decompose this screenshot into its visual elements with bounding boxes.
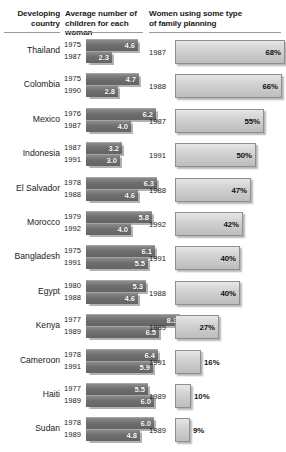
fertility-value-label: 5.8 — [138, 213, 149, 222]
table-row: El Salvador19786.319884.6198847% — [0, 174, 286, 206]
country-label: Sudan — [0, 423, 60, 433]
header-rule-children — [65, 32, 143, 33]
country-label: Haiti — [0, 389, 60, 399]
fertility-bar: 2.8 — [86, 85, 118, 97]
family-planning-bar — [175, 418, 190, 442]
planning-year-label: 1991 — [149, 254, 166, 263]
fertility-year-label: 1989 — [64, 396, 83, 405]
fertility-year-label: 1975 — [64, 246, 83, 255]
fertility-bar: 4.6 — [86, 39, 138, 51]
column-header-planning-line1: Women using some type — [149, 9, 242, 18]
fertility-year-label: 1987 — [64, 143, 83, 152]
fertility-value-label: 4.0 — [117, 225, 128, 234]
fertility-bar: 5.9 — [86, 361, 153, 373]
fertility-value-label: 2.3 — [98, 53, 109, 62]
table-row: Indonesia19873.219913.0199150% — [0, 139, 286, 171]
column-header-country: Developing country — [4, 9, 60, 28]
country-label: Cameroon — [0, 355, 60, 365]
planning-value-label: 9% — [193, 426, 204, 435]
fertility-year-label: 1980 — [64, 281, 83, 290]
planning-year-label: 1989 — [149, 323, 166, 332]
fertility-value-label: 5.5 — [134, 259, 145, 268]
table-row: Mexico19766.219874.0198755% — [0, 105, 286, 137]
planning-year-label: 1988 — [149, 82, 166, 91]
fertility-year-label: 1977 — [64, 384, 83, 393]
family-planning-bar — [175, 384, 191, 408]
fertility-bar: 3.0 — [86, 154, 120, 166]
fertility-year-label: 1978 — [64, 178, 83, 187]
table-row: Bangladesh19756.119915.5199140% — [0, 242, 286, 274]
country-label: Colombia — [0, 79, 60, 89]
planning-year-label: 1992 — [149, 220, 166, 229]
planning-year-label: 1989 — [149, 426, 166, 435]
country-label: Egypt — [0, 286, 60, 296]
planning-year-label: 1987 — [149, 48, 166, 57]
planning-year-label: 1987 — [149, 117, 166, 126]
table-row: Morocco19795.819924.0199242% — [0, 208, 286, 240]
planning-value-label: 66% — [260, 82, 278, 91]
fertility-value-label: 2.8 — [104, 87, 115, 96]
fertility-value-label: 4.7 — [125, 75, 136, 84]
country-label: Kenya — [0, 320, 60, 330]
family-planning-bar — [175, 350, 201, 374]
fertility-year-label: 1987 — [64, 121, 83, 130]
fertility-year-label: 1992 — [64, 224, 83, 233]
fertility-year-label: 1991 — [64, 258, 83, 267]
fertility-bar: 4.0 — [86, 120, 131, 132]
fertility-bar: 6.2 — [86, 108, 156, 120]
fertility-bar: 5.8 — [86, 211, 152, 223]
country-label: Bangladesh — [0, 251, 60, 261]
table-row: Kenya19778.319896.5198927% — [0, 311, 286, 343]
planning-value-label: 40% — [218, 289, 236, 298]
fertility-bar: 4.8 — [86, 429, 140, 441]
planning-year-label: 1988 — [149, 289, 166, 298]
fertility-bar: 4.6 — [86, 189, 138, 201]
fertility-year-label: 1977 — [64, 315, 83, 324]
country-label: Mexico — [0, 114, 60, 124]
fertility-family-planning-chart: Developing country Average number of chi… — [0, 0, 286, 452]
country-label: El Salvador — [0, 183, 60, 193]
planning-year-label: 1989 — [149, 392, 166, 401]
fertility-bar: 6.1 — [86, 245, 155, 257]
fertility-bar: 5.5 — [86, 257, 148, 269]
fertility-year-label: 1988 — [64, 190, 83, 199]
fertility-bar: 4.0 — [86, 223, 131, 235]
table-row: Sudan19786.019894.819899% — [0, 414, 286, 446]
fertility-bar: 6.3 — [86, 177, 157, 189]
fertility-value-label: 4.0 — [117, 122, 128, 131]
planning-value-label: 42% — [221, 220, 239, 229]
fertility-bar: 5.5 — [86, 383, 148, 395]
fertility-bar: 4.6 — [86, 292, 138, 304]
fertility-value-label: 5.5 — [134, 385, 145, 394]
fertility-year-label: 1978 — [64, 350, 83, 359]
header-rule-planning — [149, 32, 281, 33]
planning-value-label: 40% — [218, 254, 236, 263]
column-header-planning: Women using some type of family planning — [149, 9, 281, 28]
column-header-country-line1: Developing — [17, 9, 60, 18]
fertility-bar: 5.3 — [86, 280, 146, 292]
table-row: Colombia19754.719902.8198866% — [0, 70, 286, 102]
fertility-bar: 6.0 — [86, 395, 154, 407]
fertility-value-label: 3.2 — [108, 144, 119, 153]
fertility-year-label: 1975 — [64, 40, 83, 49]
planning-value-label: 55% — [242, 117, 260, 126]
fertility-bar: 6.0 — [86, 417, 154, 429]
chart-header: Developing country Average number of chi… — [0, 0, 286, 34]
fertility-year-label: 1978 — [64, 418, 83, 427]
table-row: Haiti19775.519896.0198910% — [0, 380, 286, 412]
column-header-children-line2: children for each woman — [65, 19, 129, 38]
planning-year-label: 1988 — [149, 186, 166, 195]
planning-value-label: 27% — [197, 323, 215, 332]
fertility-year-label: 1991 — [64, 362, 83, 371]
planning-value-label: 68% — [263, 48, 281, 57]
planning-value-label: 47% — [229, 186, 247, 195]
header-rule-country — [4, 32, 60, 33]
fertility-year-label: 1989 — [64, 430, 83, 439]
fertility-value-label: 4.8 — [126, 431, 137, 440]
planning-year-label: 1991 — [149, 151, 166, 160]
fertility-year-label: 1975 — [64, 74, 83, 83]
fertility-value-label: 4.6 — [124, 41, 135, 50]
table-row: Egypt19805.319884.6198840% — [0, 277, 286, 309]
fertility-year-label: 1989 — [64, 327, 83, 336]
fertility-year-label: 1987 — [64, 52, 83, 61]
